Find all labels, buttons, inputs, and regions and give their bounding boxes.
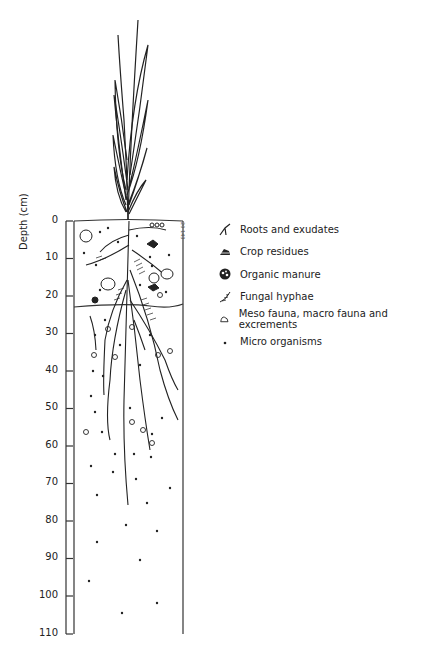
legend-item-roots: Roots and exudates (218, 218, 430, 241)
tick-label: 70 (30, 476, 58, 487)
legend-label: Meso fauna, macro fauna and excrements (239, 308, 430, 330)
legend: Roots and exudates Crop residues Organic… (218, 218, 430, 353)
tick-label: 20 (30, 289, 58, 300)
fungal-hyphae-icon (218, 290, 232, 304)
legend-label: Organic manure (240, 269, 321, 280)
legend-item-micro-organisms: Micro organisms (218, 331, 430, 354)
legend-item-crop-residues: Crop residues (218, 241, 430, 264)
plant-shoot (113, 20, 148, 220)
tick-label: 110 (30, 627, 58, 638)
tick-label: 0 (30, 214, 58, 225)
y-axis-label: Depth (cm) (18, 193, 29, 250)
legend-item-fauna: Meso fauna, macro fauna and excrements (218, 308, 430, 331)
roots (86, 221, 178, 505)
crop-residue-icon (218, 245, 232, 259)
legend-item-fungal-hyphae: Fungal hyphae (218, 286, 430, 309)
legend-item-organic-manure: Organic manure (218, 263, 430, 286)
figure-id: 20 143 (180, 222, 186, 240)
depth-axis (66, 221, 73, 634)
fauna (84, 293, 173, 446)
tick-label: 100 (30, 589, 58, 600)
plough-layer-boundary (74, 304, 183, 307)
tick-label: 40 (30, 364, 58, 375)
micro-organism-icon (218, 335, 232, 349)
organic-manure-icon (218, 267, 232, 281)
tick-label: 10 (30, 251, 58, 262)
legend-label: Fungal hyphae (240, 291, 314, 302)
fauna-icon (218, 312, 231, 326)
tick-label: 50 (30, 401, 58, 412)
tick-label: 90 (30, 551, 58, 562)
legend-label: Crop residues (240, 246, 309, 257)
tick-label: 30 (30, 326, 58, 337)
legend-label: Micro organisms (240, 336, 322, 347)
tick-label: 60 (30, 439, 58, 450)
roots-icon (218, 222, 232, 236)
legend-label: Roots and exudates (240, 224, 339, 235)
tick-label: 80 (30, 514, 58, 525)
